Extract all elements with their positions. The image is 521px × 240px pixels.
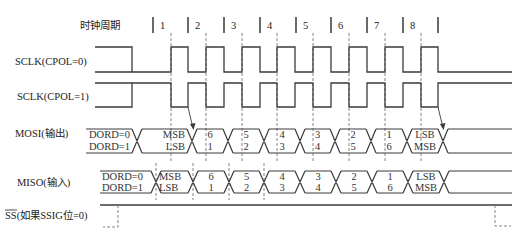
miso-bit-bottom: 3 [279,182,284,193]
mosi-bus-waveform [86,129,512,153]
mosi-bit-bottom: 1 [207,141,212,152]
mosi-bit-top: 3 [315,129,320,140]
mosi-bit-top: LSB [415,129,434,140]
miso-bit-bottom: MSB [415,182,437,193]
cycle-number: 5 [303,20,308,31]
cycle-number: 7 [374,20,379,31]
signal-label: SCLK(CPOL=1) [17,91,89,103]
signal-miso: MISO(输入) DORD=0 DORD=1 MSB LSB 6 1 5 2 4… [17,171,512,193]
mosi-bit-bottom: MSB [414,141,436,152]
signal-label: SCLK(CPOL=0) [15,56,87,68]
miso-bit-top: MSB [159,171,181,182]
miso-bit-top: 1 [387,171,392,182]
signal-sclk-cpol1: SCLK(CPOL=1) [17,83,512,107]
cycle-number: 1 [160,20,165,31]
arrow-head-icon [440,123,446,130]
signal-label: MISO(输入) [17,176,71,189]
spi-timing-diagram: 时钟周期 1 2 3 4 5 6 7 8 [0,0,521,240]
miso-bit-top: 6 [208,171,213,182]
miso-dord1-label: DORD=1 [102,182,143,193]
miso-dord0-label: DORD=0 [102,171,143,182]
mosi-bit-bottom: 5 [350,141,355,152]
mosi-bit-bottom: 6 [386,141,391,152]
mosi-dord0-label: DORD=0 [89,129,130,140]
arrow-line [438,107,443,126]
mosi-bit-bottom: 3 [279,141,284,152]
ss-deassert-dashed [495,205,511,226]
miso-bit-bottom: LSB [159,182,178,193]
mosi-bit-bottom: LSB [166,141,185,152]
miso-bit-bottom: 2 [244,182,249,193]
cycle-number: 3 [231,20,236,31]
ss-assert-dashed [103,205,118,227]
miso-bit-bottom: 4 [315,182,321,193]
arrow-head-icon [190,123,196,130]
cycle-numbers: 1 2 3 4 5 6 7 8 [160,20,415,31]
cycle-number: 6 [338,20,343,31]
mosi-bit-bottom: 4 [315,141,321,152]
ss-condition: (如果SSIG位=0) [17,209,88,222]
miso-bit-top: 2 [351,171,356,182]
miso-bit-bottom: 5 [351,182,356,193]
mosi-bit-top: 6 [207,129,212,140]
miso-bit-bottom: 1 [208,182,213,193]
signal-label: SS(如果SSIG位=0) [5,209,88,222]
miso-bit-top: 4 [279,171,285,182]
cycle-number: 8 [410,20,415,31]
cycle-number: 2 [195,20,200,31]
signal-sclk-cpol0: SCLK(CPOL=0) [15,47,512,72]
mosi-bit-top: MSB [163,129,185,140]
miso-bit-top: 3 [315,171,320,182]
ss-signal-name: SS [5,210,17,221]
arrow-line [188,107,193,126]
cycle-number: 4 [267,20,273,31]
clock-cycle-label: 时钟周期 [80,19,120,31]
miso-bit-bottom: 6 [387,182,392,193]
signal-mosi: MOSI(输出) DORD=0 DORD=1 MSB LSB 6 1 5 2 4… [15,127,512,153]
mosi-bit-top: 4 [279,129,285,140]
clock-cycle-header: 时钟周期 1 2 3 4 5 6 7 8 [80,17,438,33]
mosi-bit-top: 2 [350,129,355,140]
signal-ss: SS(如果SSIG位=0) [5,205,512,227]
mosi-dord1-label: DORD=1 [89,141,130,152]
sclk-cpol0-waveform [95,47,512,72]
signal-label: MOSI(输出) [15,127,69,140]
miso-bit-top: LSB [416,171,435,182]
edge-to-data-arrows [188,107,446,130]
sclk-cpol1-waveform [95,83,512,107]
mosi-bit-top: 5 [243,129,248,140]
mosi-bit-bottom: 2 [243,141,248,152]
miso-bit-top: 5 [244,171,249,182]
mosi-bit-top: 1 [386,129,391,140]
